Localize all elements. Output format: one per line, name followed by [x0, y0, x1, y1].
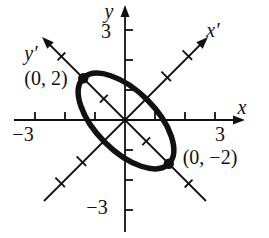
x-axis-tick-label-3: 3	[215, 124, 225, 144]
x-prime-axis-label: x′	[206, 20, 219, 40]
y-prime-axis-line	[50, 45, 206, 201]
vertex-dot-0-neg2	[164, 159, 174, 169]
x-axis-tick-label-neg3: −3	[12, 124, 33, 144]
rotated-axes-figure: y 3 x′ y′ (0, 2) x −3 3 (0, −2) −3	[0, 0, 269, 238]
y-axis-tick-label-neg3: −3	[86, 197, 107, 217]
y-axis-tick-label-3: 3	[101, 21, 111, 41]
point-label-0-neg2: (0, −2)	[183, 147, 238, 167]
axes-and-ellipse-svg	[0, 0, 269, 238]
point-label-0-2: (0, 2)	[24, 68, 67, 88]
y-axis-label: y	[105, 1, 114, 21]
y-prime-axis-label: y′	[24, 43, 37, 63]
x-axis-label: x	[238, 97, 247, 117]
y-axis-arrowhead	[121, 5, 130, 17]
vertex-dot-0-2	[78, 73, 88, 83]
